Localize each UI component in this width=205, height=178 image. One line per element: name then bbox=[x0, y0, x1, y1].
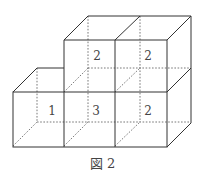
label-bottom-right: 2 bbox=[144, 104, 152, 118]
label-top-right: 2 bbox=[144, 49, 152, 63]
label-bottom-middle: 3 bbox=[92, 104, 100, 118]
label-bottom-left: 1 bbox=[48, 104, 56, 118]
cube-stack-diagram: 2 2 1 3 2 bbox=[0, 0, 205, 178]
hidden-edges bbox=[13, 16, 190, 146]
label-top-middle: 2 bbox=[93, 49, 101, 63]
figure-caption: 図 2 bbox=[0, 153, 205, 172]
visible-edges bbox=[13, 16, 191, 147]
